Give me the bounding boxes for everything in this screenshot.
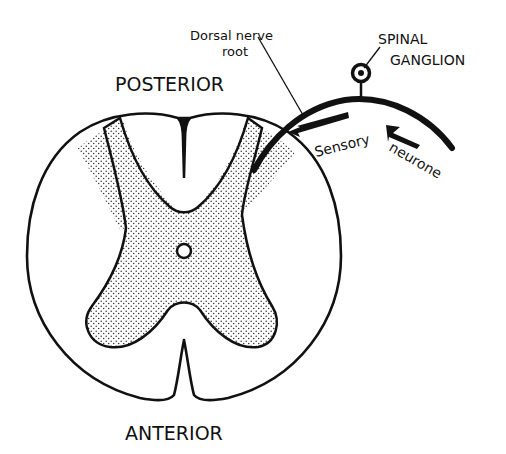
- anterior-label: ANTERIOR: [125, 422, 223, 444]
- dorsal-nerve-root-label-1: Dorsal nerve: [190, 28, 273, 43]
- arrow-left-icon: [288, 112, 349, 137]
- sensory-label: Sensory: [313, 131, 371, 160]
- posterior-median-septum: [178, 118, 190, 178]
- dorsal-root-leader-line: [258, 37, 303, 115]
- central-canal: [177, 244, 191, 258]
- spinal-ganglion-label-1: SPINAL: [378, 31, 428, 47]
- ganglion-nucleus: [358, 70, 364, 76]
- grey-matter: [86, 118, 276, 347]
- dorsal-nerve-root-label-2: root: [222, 44, 248, 59]
- spinal-ganglion-label-2: GANGLION: [390, 52, 465, 68]
- spinal-cord-diagram: POSTERIOR ANTERIOR Dorsal nerve root SPI…: [0, 0, 506, 454]
- posterior-label: POSTERIOR: [115, 73, 224, 95]
- ganglion-leader-line: [364, 47, 380, 68]
